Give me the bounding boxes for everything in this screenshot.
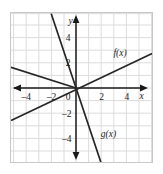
y-tick-label-neg4: –4 [61,134,72,144]
plot-area: –4 –2 0 2 4 4 2 –2 –4 x y f(x) g(x) [10,12,153,163]
y-tick-label-2: 2 [66,58,71,68]
y-tick-label-4: 4 [66,33,71,43]
graph-figure: –4 –2 0 2 4 4 2 –2 –4 x y f(x) g(x) [0,0,163,174]
y-axis-label: y [67,16,73,26]
series-line-fx [12,54,152,120]
x-tick-label-4: 4 [124,92,129,102]
series-label-fx: f(x) [113,48,126,59]
x-axis-label: x [138,91,144,101]
x-tick-label-neg2: –2 [46,92,57,102]
x-tick-label-zero: 0 [66,92,71,102]
y-tick-label-neg2: –2 [61,109,72,119]
horizontal-gridlines [11,14,152,151]
x-tick-label-2: 2 [99,92,104,102]
x-tick-label-neg4: –4 [20,92,31,102]
coordinate-plane-svg: –4 –2 0 2 4 4 2 –2 –4 x y f(x) g(x) [11,13,152,162]
series-label-gx: g(x) [101,129,116,140]
